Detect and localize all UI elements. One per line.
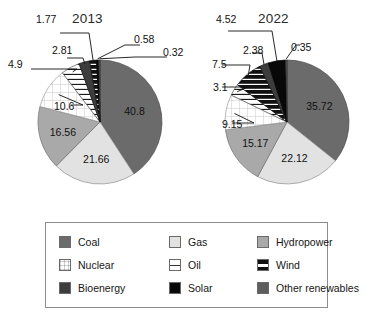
pie-slices-2022	[225, 60, 349, 184]
callout-2022-bioenergy: 2.38	[243, 45, 263, 56]
callout-2022-oil: 3.1	[213, 82, 228, 93]
legend-swatch-solar-icon	[169, 282, 181, 294]
legend-swatch-oil-icon	[169, 259, 181, 271]
legend-label-coal: Coal	[78, 236, 100, 248]
legend-label-other-renewables: Other renewables	[276, 282, 359, 294]
callout-2022-solar: 4.52	[216, 14, 236, 25]
pie-value-label-hydropower: 15.17	[242, 137, 268, 149]
legend-item-wind: Wind	[257, 259, 359, 271]
leader-line-other-renewables	[99, 57, 167, 59]
pie-chart-2022: 35.7222.1215.17	[192, 5, 375, 215]
callout-2013-other: 0.32	[163, 47, 183, 58]
callout-2013-wind: 1.77	[36, 14, 56, 25]
callout-2013-bioenergy: 2.81	[52, 45, 72, 56]
pie-value-label-coal: 40.8	[124, 105, 145, 117]
legend-swatch-gas-icon	[169, 236, 181, 248]
legend-label-wind: Wind	[276, 259, 300, 271]
pie-value-label-gas: 21.66	[83, 153, 109, 165]
legend-item-gas: Gas	[169, 236, 257, 248]
callout-2013-solar: 0.58	[134, 34, 154, 45]
legend-label-nuclear: Nuclear	[78, 259, 114, 271]
legend-label-hydropower: Hydropower	[276, 236, 333, 248]
legend-swatch-bioenergy-icon	[59, 282, 71, 294]
legend-label-solar: Solar	[188, 282, 213, 294]
pie-value-label-coal: 35.72	[306, 100, 332, 112]
pie-slices-2013	[38, 60, 162, 184]
legend: Coal Gas Hydropower Nuclear Oil Wind	[45, 222, 328, 308]
legend-label-gas: Gas	[188, 236, 207, 248]
legend-swatch-wind-icon	[257, 259, 269, 271]
legend-swatch-nuclear-icon	[59, 259, 71, 271]
legend-item-oil: Oil	[169, 259, 257, 271]
figure-root: 2013 40.821.6616.56 1.77 2.81 4.9 10.6 0…	[0, 0, 375, 324]
legend-item-solar: Solar	[169, 282, 257, 294]
legend-label-bioenergy: Bioenergy	[78, 282, 125, 294]
callout-2022-nuclear: 9.15	[222, 119, 242, 130]
legend-swatch-other-renewables-icon	[257, 282, 269, 294]
legend-item-coal: Coal	[59, 236, 169, 248]
legend-item-bioenergy: Bioenergy	[59, 282, 169, 294]
pie-value-label-hydropower: 16.56	[50, 126, 76, 138]
callout-2013-nuclear: 10.6	[54, 101, 74, 112]
legend-label-oil: Oil	[188, 259, 201, 271]
legend-item-nuclear: Nuclear	[59, 259, 169, 271]
pie-value-label-gas: 22.12	[281, 152, 307, 164]
legend-item-other-renewables: Other renewables	[257, 282, 359, 294]
callout-2013-oil: 4.9	[8, 59, 23, 70]
pie-chart-2013: 40.821.6616.56	[5, 5, 195, 215]
callout-2022-other: 0.35	[291, 42, 311, 53]
legend-swatch-coal-icon	[59, 236, 71, 248]
legend-item-hydropower: Hydropower	[257, 236, 359, 248]
callout-2022-wind: 7.5	[212, 59, 227, 70]
legend-swatch-hydropower-icon	[257, 236, 269, 248]
